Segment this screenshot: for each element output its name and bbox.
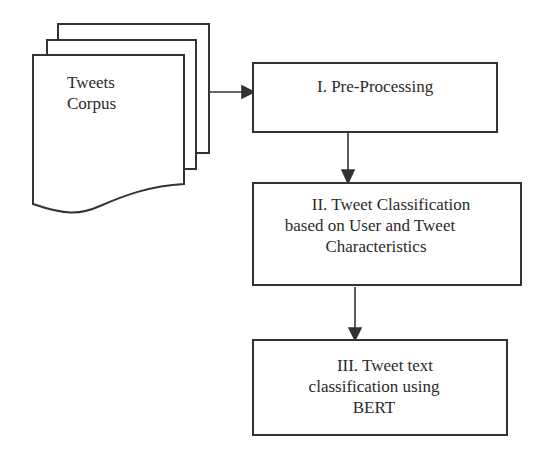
step-tweet-classification: II. Tweet Classification based on User a… xyxy=(252,182,522,286)
step2-label-line1: II. Tweet Classification xyxy=(254,194,516,215)
step1-label: I. Pre-Processing xyxy=(317,76,433,97)
step-bert-classification: III. Tweet text classification using BER… xyxy=(252,339,508,436)
step3-label-line2: classification using xyxy=(254,376,494,397)
step3-label-line1: III. Tweet text xyxy=(254,355,494,376)
step2-label-line2: based on User and Tweet xyxy=(254,215,516,236)
step3-label-line3: BERT xyxy=(254,397,494,418)
source-label: Tweets Corpus xyxy=(67,72,116,114)
source-label-line1: Tweets xyxy=(67,72,116,93)
source-label-line2: Corpus xyxy=(67,93,116,114)
tweets-corpus-document-stack-icon xyxy=(33,24,209,213)
step2-label-line3: Characteristics xyxy=(254,236,516,257)
step-pre-processing: I. Pre-Processing xyxy=(252,62,498,133)
